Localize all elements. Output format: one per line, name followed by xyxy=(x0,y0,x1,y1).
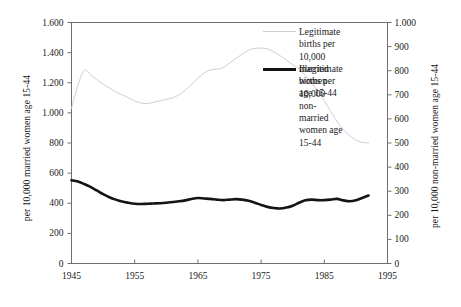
legend-swatch-legitimate xyxy=(263,31,296,32)
right-axis-tick-label: 300 xyxy=(395,186,439,196)
right-axis-tick-label: 900 xyxy=(395,42,439,52)
left-axis-tick-label: 1.000 xyxy=(20,108,64,118)
left-axis-tick-label: 1.200 xyxy=(20,78,64,88)
legend-label-illegitimate: Illegitimate births per 10,000 non-marri… xyxy=(299,63,343,149)
right-axis-tick-label: 600 xyxy=(395,114,439,124)
left-axis-tick-label: 1.600 xyxy=(20,18,64,28)
chart-figure: per 10,000 married women age 15-44 per 1… xyxy=(0,0,461,307)
right-axis-ticks xyxy=(388,23,392,264)
x-axis-tick-label: 1955 xyxy=(113,271,157,281)
right-axis-tick-label: 200 xyxy=(395,210,439,220)
right-axis-tick-label: 100 xyxy=(395,234,439,244)
right-axis-tick-label: 0 xyxy=(395,259,439,269)
right-axis-tick-label: 500 xyxy=(395,138,439,148)
left-axis-tick-label: 1.400 xyxy=(20,48,64,58)
plot-area xyxy=(0,0,461,307)
right-axis-tick-label: 700 xyxy=(395,90,439,100)
legend-swatch-illegitimate xyxy=(263,68,296,71)
x-axis-ticks xyxy=(72,260,388,264)
x-axis-tick-label: 1965 xyxy=(176,271,220,281)
left-axis-ticks xyxy=(68,23,72,264)
left-axis-tick-label: 0 xyxy=(20,259,64,269)
left-axis-tick-label: 200 xyxy=(20,228,64,238)
right-axis-tick-label: 800 xyxy=(395,66,439,76)
left-axis-tick-label: 800 xyxy=(20,138,64,148)
x-axis-tick-label: 1975 xyxy=(239,271,283,281)
left-axis-tick-label: 600 xyxy=(20,168,64,178)
right-axis-tick-label: 1.000 xyxy=(395,18,439,28)
x-axis-tick-label: 1995 xyxy=(366,271,410,281)
x-axis-tick-label: 1945 xyxy=(50,271,94,281)
series-line-illegitimate xyxy=(72,180,369,208)
left-axis-tick-label: 400 xyxy=(20,198,64,208)
x-axis-tick-label: 1985 xyxy=(302,271,346,281)
right-axis-tick-label: 400 xyxy=(395,162,439,172)
